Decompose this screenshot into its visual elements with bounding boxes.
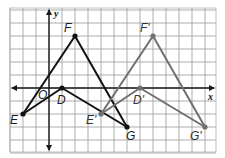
coordinate-plane-diagram: F D E G F' D' E' G' O x y <box>0 0 225 158</box>
label-E: E <box>10 113 19 127</box>
x-axis-arrow-left-icon <box>11 85 17 91</box>
image-edge-DG <box>140 88 205 127</box>
label-G: G <box>126 129 135 143</box>
label-x-axis: x <box>207 91 213 102</box>
original-vertex-F <box>72 33 77 38</box>
label-E-prime: E' <box>86 113 97 127</box>
label-G-prime: G' <box>190 129 202 143</box>
grid-lines <box>10 8 216 153</box>
axes <box>11 9 215 151</box>
y-axis-arrow-down-icon <box>46 145 52 151</box>
grid-border <box>10 8 216 152</box>
label-D: D <box>57 93 66 107</box>
original-vertex-D <box>59 85 64 90</box>
label-origin: O <box>38 88 47 102</box>
vertex-labels: F D E G F' D' E' G' O x y <box>10 8 213 143</box>
label-D-prime: D' <box>133 93 145 107</box>
image-vertex-F-prime <box>150 33 155 38</box>
original-vertex-E <box>20 111 25 116</box>
image-vertex-E-prime <box>98 111 103 116</box>
image-vertex-D-prime <box>137 85 142 90</box>
image-vertex-G-prime <box>202 124 207 129</box>
label-F-prime: F' <box>140 21 150 35</box>
label-y-axis: y <box>53 8 59 19</box>
label-F: F <box>64 21 72 35</box>
diagram-canvas: F D E G F' D' E' G' O x y <box>0 0 225 158</box>
